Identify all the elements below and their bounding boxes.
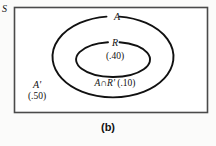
- probability-a-intersect-r-complement: (.10): [117, 78, 135, 88]
- probability-a-complement: (.50): [19, 92, 55, 102]
- region-label-a-intersect-r-complement: A∩R' (.10): [81, 79, 149, 89]
- region-label-text: A∩R': [94, 78, 115, 88]
- set-label-a-complement: A': [22, 80, 52, 91]
- venn-diagram-figure: S A R (.40) A∩R' (.10) A' (.50) (b): [0, 0, 216, 146]
- universe-label-s: S: [2, 4, 7, 15]
- probability-r: (.40): [99, 52, 131, 62]
- set-label-a: A: [107, 12, 127, 23]
- figure-caption: (b): [0, 121, 216, 133]
- set-label-r: R: [105, 38, 125, 49]
